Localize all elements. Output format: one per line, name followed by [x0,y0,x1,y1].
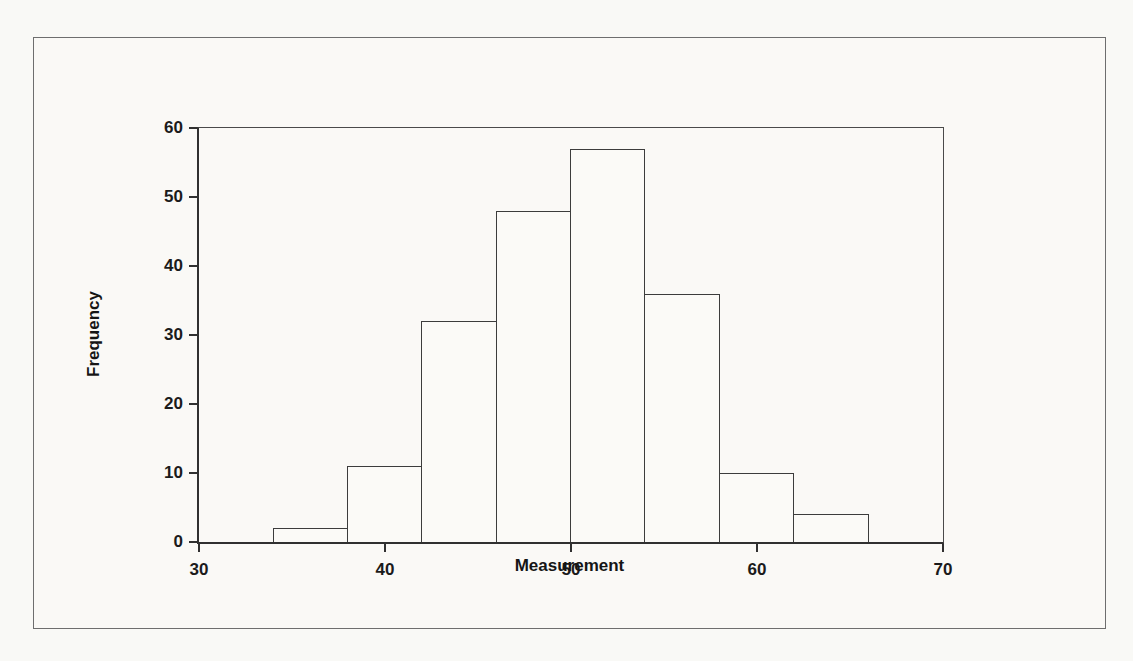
scanned-page: 01020304050603040506070 Frequency Measur… [0,0,1133,661]
y-axis-tick [189,472,197,474]
y-axis-tick-label: 30 [164,325,183,345]
x-axis-tick [384,544,386,552]
y-axis-tick [189,541,197,543]
histogram-bar [793,514,868,542]
histogram-bar [496,211,571,542]
x-axis-tick [942,544,944,552]
y-axis-tick-label: 40 [164,256,183,276]
histogram-bar [421,321,496,542]
y-axis-tick [189,403,197,405]
x-axis-tick [756,544,758,552]
y-axis-tick-label: 10 [164,463,183,483]
y-axis-tick [189,127,197,129]
histogram-bar [644,294,719,542]
y-axis-tick [189,334,197,336]
histogram-bar [719,473,794,542]
chart-frame: 01020304050603040506070 Frequency Measur… [33,37,1106,629]
histogram-bar [273,528,347,542]
y-axis-tick-label: 20 [164,394,183,414]
y-axis-tick [189,265,197,267]
plot-area: 01020304050603040506070 [197,127,944,544]
y-axis-tick-label: 50 [164,187,183,207]
x-axis-title: Measurement [34,556,1105,576]
x-axis-tick [198,544,200,552]
y-axis-tick-label: 60 [164,118,183,138]
y-axis-title: Frequency [84,291,104,377]
x-axis-tick [570,544,572,552]
y-axis-tick-label: 0 [174,532,183,552]
histogram-bar [570,149,645,542]
histogram-bar [347,466,422,542]
y-axis-tick [189,196,197,198]
